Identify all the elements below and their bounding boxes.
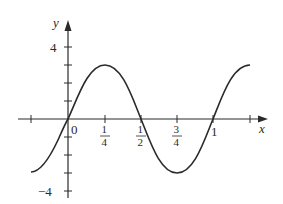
origin-label: 0 xyxy=(71,122,78,137)
svg-text:1: 1 xyxy=(138,123,144,135)
x-tick-label-quarter: 1 4 xyxy=(100,123,110,148)
x-axis-label: x xyxy=(258,121,265,136)
svg-text:4: 4 xyxy=(102,136,108,148)
x-tick-label-1: 1 xyxy=(211,124,218,139)
y-axis-label: y xyxy=(51,15,59,30)
svg-text:2: 2 xyxy=(138,136,144,148)
y-tick-label-4: 4 xyxy=(50,40,57,55)
x-tick-label-three-quarters: 3 4 xyxy=(172,123,182,148)
svg-text:4: 4 xyxy=(174,136,180,148)
chart: y 4 −4 0 1 4 1 2 3 4 1 x xyxy=(0,0,283,204)
y-tick-label-neg4: −4 xyxy=(38,184,52,199)
y-axis-arrow-icon xyxy=(65,20,72,31)
svg-text:3: 3 xyxy=(174,123,180,135)
svg-text:1: 1 xyxy=(102,123,108,135)
